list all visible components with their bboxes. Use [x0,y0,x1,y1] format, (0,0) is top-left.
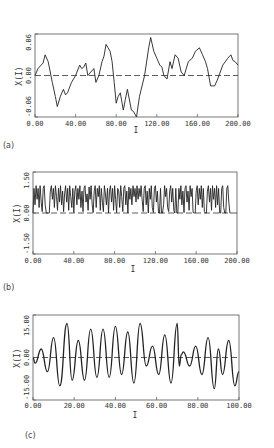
x-tick-label: 200.00 [225,120,250,128]
y-tick-label: 0.00 [25,67,33,84]
y-tick-label: 1.50 [23,172,31,189]
panel-a-y-ticks: -0.060.000.06 [25,34,38,117]
x-tick-label: 0.00 [25,402,42,410]
panel-c-x-ticks: 0.0020.0040.0060.0080.00100.00 [25,397,252,410]
y-tick-label: -15.00 [23,375,31,400]
panel-b-curve [33,186,231,213]
panel-a-x-axis-label: I [134,126,139,135]
y-tick-label: 0.06 [25,34,33,51]
panel-c: 0.0020.0040.0060.0080.00100.00 -15.000.0… [13,315,252,440]
x-tick-label: 100.00 [226,402,251,410]
y-tick-label: -1.50 [23,233,31,254]
panel-c-label: (c) [25,431,36,440]
x-tick-label: 0.00 [25,257,42,265]
y-tick-label: -0.06 [25,96,33,117]
panel-a: 0.0040.0080.00120.00160.00200.00 -0.060.… [3,34,251,150]
x-tick-label: 60.00 [146,402,167,410]
x-tick-label: 80.00 [106,120,127,128]
x-tick-label: 0.00 [27,120,44,128]
x-tick-label: 80.00 [187,402,208,410]
x-tick-label: 160.00 [184,257,209,265]
y-tick-label: 15.00 [23,315,31,336]
panel-b-x-axis-label: I [131,265,136,274]
panel-b-y-ticks: -1.500.001.50 [23,172,36,254]
y-tick-label: 0.00 [23,205,31,222]
panel-b-y-axis-label: X(I) [13,203,22,222]
panel-c-x-axis-label: I [133,411,138,420]
panel-a-x-ticks: 0.0040.0080.00120.00160.00200.00 [27,114,251,128]
x-tick-label: 160.00 [185,120,210,128]
panel-a-y-axis-label: X(I) [15,66,24,85]
panel-c-curve [33,324,239,389]
panel-c-y-axis-label: X(I) [13,348,22,367]
x-tick-label: 200.00 [224,257,249,265]
x-tick-label: 80.00 [104,257,125,265]
panel-b: 0.0040.0080.00120.00160.00200.00 -1.500.… [3,172,250,292]
y-tick-label: 0.00 [23,349,31,366]
x-tick-label: 40.00 [105,402,126,410]
panel-c-y-ticks: -15.000.0015.00 [23,315,36,400]
panel-a-label: (a) [3,141,14,150]
panel-a-curve [35,38,238,118]
x-tick-label: 20.00 [64,402,85,410]
panel-b-x-ticks: 0.0040.0080.00120.00160.00200.00 [25,251,250,265]
panel-b-label: (b) [3,283,14,292]
figure-three-panel-time-series: 0.0040.0080.00120.00160.00200.00 -0.060.… [0,0,274,448]
x-tick-label: 40.00 [65,120,86,128]
x-tick-label: 120.00 [143,257,168,265]
x-tick-label: 40.00 [63,257,84,265]
x-tick-label: 120.00 [144,120,169,128]
